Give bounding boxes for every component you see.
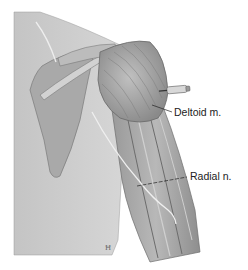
- label-radial-nerve: Radial n.: [190, 171, 231, 182]
- anatomical-illustration: [0, 0, 248, 270]
- artist-signature: Ħ: [105, 244, 111, 252]
- label-deltoid-muscle: Deltoid m.: [174, 107, 221, 118]
- upper-arm: [112, 104, 200, 262]
